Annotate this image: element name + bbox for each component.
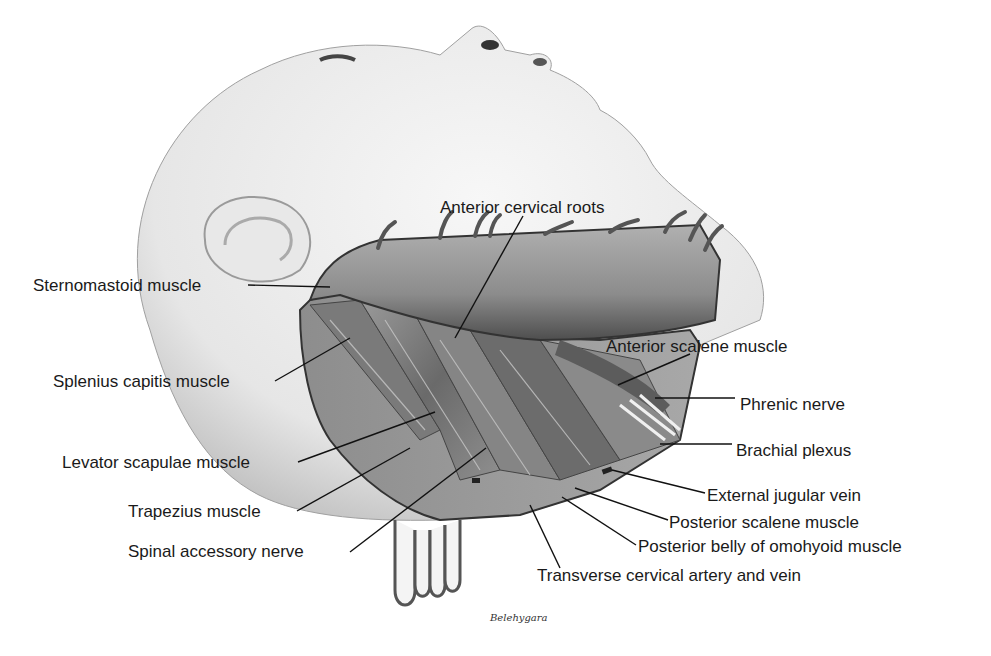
artist-signature: Belehygara — [490, 612, 548, 623]
label-sternomastoid-muscle: Sternomastoid muscle — [33, 276, 201, 296]
label-splenius-capitis-muscle: Splenius capitis muscle — [53, 372, 230, 392]
ear — [205, 197, 311, 282]
label-anterior-scalene-muscle: Anterior scalene muscle — [606, 337, 787, 357]
label-brachial-plexus: Brachial plexus — [736, 441, 851, 461]
label-posterior-scalene-muscle: Posterior scalene muscle — [669, 513, 859, 533]
label-spinal-accessory-nerve: Spinal accessory nerve — [128, 542, 304, 562]
label-external-jugular-vein: External jugular vein — [707, 486, 861, 506]
label-transverse-cervical-artery-vein: Transverse cervical artery and vein — [537, 566, 801, 586]
retractor — [395, 520, 460, 605]
label-levator-scapulae-muscle: Levator scapulae muscle — [62, 453, 250, 473]
label-posterior-belly-omohyoid: Posterior belly of omohyoid muscle — [638, 537, 902, 557]
label-phrenic-nerve: Phrenic nerve — [740, 395, 845, 415]
label-trapezius-muscle: Trapezius muscle — [128, 502, 261, 522]
label-anterior-cervical-roots: Anterior cervical roots — [440, 198, 604, 218]
